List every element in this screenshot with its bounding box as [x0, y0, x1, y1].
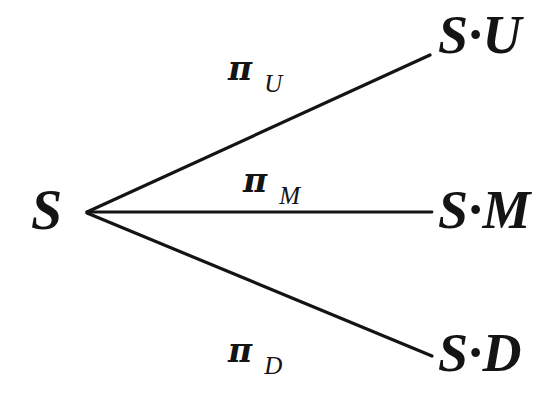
- trinomial-tree-diagram: S S·U S·M S·D πU πM πD: [0, 0, 557, 400]
- leaf-node-middle-label: S·M: [438, 183, 531, 237]
- pi-symbol-down: π: [228, 334, 252, 367]
- leaf-node-up-label: S·U: [438, 8, 522, 62]
- pi-subscript-middle: M: [279, 183, 300, 208]
- edge-label-up: πU: [228, 52, 270, 85]
- pi-symbol-middle: π: [243, 164, 267, 197]
- leaf-node-down-label: S·D: [438, 326, 522, 380]
- root-node-label: S: [31, 182, 63, 238]
- pi-subscript-up: U: [264, 71, 282, 96]
- edge-label-down: πD: [228, 334, 270, 367]
- pi-subscript-down: D: [264, 353, 282, 378]
- edge-label-middle: πM: [243, 164, 288, 197]
- pi-symbol-up: π: [228, 52, 252, 85]
